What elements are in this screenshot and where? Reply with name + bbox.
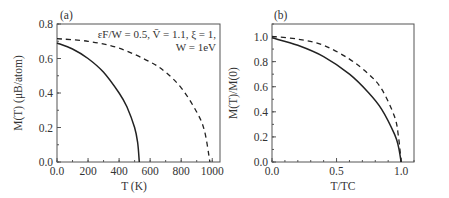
x-tick-label: 200 bbox=[79, 165, 97, 177]
panel-a-annotation-line2: W = 1eV bbox=[176, 41, 216, 53]
panel-b-xlabel: T/TC bbox=[331, 180, 356, 192]
panel-a-solid-curve bbox=[57, 43, 139, 162]
panel-b-frame bbox=[272, 24, 414, 162]
x-tick-label: 800 bbox=[173, 165, 191, 177]
panel-a-annotation-line1: εF/W = 0.5, V̄ = 1.1, ξ = 1, bbox=[98, 28, 217, 41]
panel-a-xlabel: T (K) bbox=[121, 180, 147, 193]
y-tick-label: 0.0 bbox=[254, 156, 269, 168]
panel-b-ylabel: M(T)/M(0) bbox=[227, 67, 240, 119]
x-tick-label: 1.0 bbox=[394, 165, 409, 177]
panel-a-ylabel: M(T) (μB/atom) bbox=[12, 55, 25, 131]
y-tick-label: 0.8 bbox=[39, 18, 54, 30]
y-tick-label: 0.4 bbox=[39, 87, 54, 99]
y-tick-label: 1.0 bbox=[254, 31, 269, 43]
x-tick-label: 0.5 bbox=[329, 165, 344, 177]
panel-b-solid-curve bbox=[272, 38, 401, 162]
x-tick-label: 1000 bbox=[201, 165, 224, 177]
panel-b-tick-labels: 0.00.51.00.00.20.40.60.81.0 bbox=[254, 31, 409, 177]
x-tick-label: 400 bbox=[110, 165, 128, 177]
y-tick-label: 0.4 bbox=[254, 106, 269, 118]
panel-b-ticks bbox=[272, 24, 414, 162]
y-tick-label: 0.2 bbox=[39, 122, 54, 134]
x-tick-label: 600 bbox=[142, 165, 160, 177]
panel-b-tag: (b) bbox=[274, 9, 288, 22]
panel-b-dashed-curve bbox=[272, 37, 401, 163]
y-tick-label: 0.6 bbox=[39, 53, 54, 65]
y-tick-label: 0.2 bbox=[254, 131, 269, 143]
y-tick-label: 0.0 bbox=[39, 156, 54, 168]
panel-a-dashed-curve bbox=[57, 39, 210, 162]
panel-a: 0.020040060080010000.00.20.40.60.8 (a) ε… bbox=[12, 9, 224, 193]
figure: 0.020040060080010000.00.20.40.60.8 (a) ε… bbox=[0, 0, 449, 198]
panel-a-tag: (a) bbox=[60, 9, 73, 22]
panel-b: 0.00.51.00.00.20.40.60.81.0 (b) T/TC M(T… bbox=[227, 9, 414, 192]
y-tick-label: 0.8 bbox=[254, 56, 269, 68]
y-tick-label: 0.6 bbox=[254, 81, 269, 93]
